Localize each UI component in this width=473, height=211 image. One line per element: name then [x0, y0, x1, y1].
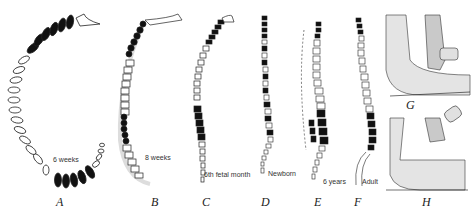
panel-c-age-label: 6th fetal month [204, 171, 250, 178]
panel-b-letter: B [151, 195, 158, 210]
panel-g-drawing [386, 15, 470, 96]
panel-h-drawing [386, 104, 468, 190]
panel-f-letter: F [354, 195, 361, 210]
panel-a-age-label: 6 weeks [53, 156, 79, 163]
panel-e-letter: E [314, 195, 321, 210]
panel-d-age-label: Newborn [268, 170, 296, 177]
panel-g-letter: G [406, 98, 415, 113]
panel-c-drawing [194, 15, 234, 182]
panel-d-drawing [261, 16, 273, 173]
panel-d-letter: D [261, 195, 270, 210]
panel-f-drawing [356, 18, 376, 186]
panel-h-letter: H [422, 195, 431, 210]
panel-e-age-label: 6 years [323, 178, 346, 185]
panel-c-letter: C [202, 195, 210, 210]
panel-f-age-label: Adult [362, 178, 378, 185]
panel-b-age-label: 8 weeks [145, 154, 171, 161]
panel-e-drawing [301, 22, 328, 179]
spine-development-illustration [0, 0, 473, 211]
panel-a-letter: A [56, 195, 63, 210]
